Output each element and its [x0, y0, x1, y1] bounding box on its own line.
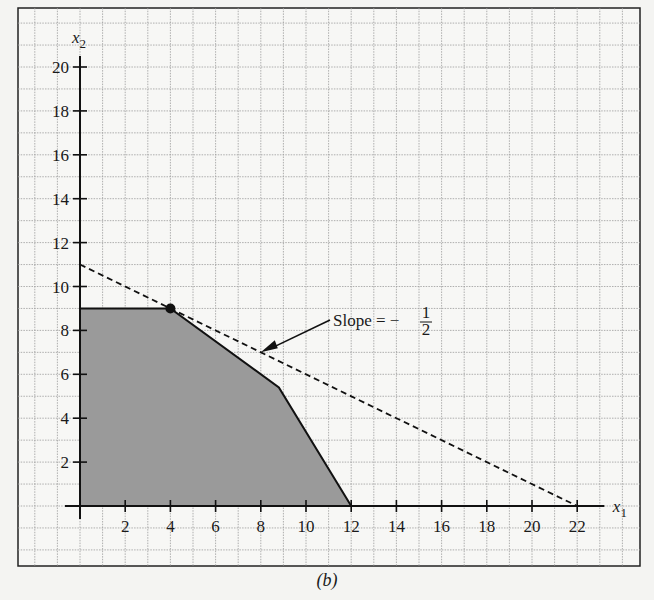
- lp-feasible-region-chart: 2468101214161820222468101214161820x1x2 S…: [0, 0, 654, 600]
- y-tick-label: 2: [61, 453, 70, 472]
- y-tick-label: 16: [52, 146, 69, 165]
- x-tick-label: 10: [298, 517, 315, 536]
- y-tick-label: 20: [52, 58, 69, 77]
- x-tick-label: 6: [211, 517, 220, 536]
- y-tick-label: 12: [52, 234, 69, 253]
- x-tick-label: 8: [257, 517, 266, 536]
- y-tick-label: 14: [52, 190, 70, 209]
- x-tick-label: 4: [166, 517, 175, 536]
- x-tick-label: 20: [524, 517, 541, 536]
- x-tick-label: 12: [343, 517, 360, 536]
- x-tick-label: 18: [478, 517, 495, 536]
- slope-label: Slope = −: [333, 311, 399, 330]
- figure-caption: (b): [0, 570, 654, 591]
- slope-fraction-denominator: 2: [422, 320, 431, 339]
- x-tick-label: 2: [121, 517, 130, 536]
- optimal-point-marker: [165, 303, 175, 313]
- x-tick-label: 16: [433, 517, 450, 536]
- y-tick-label: 4: [61, 409, 70, 428]
- x-tick-label: 14: [388, 517, 406, 536]
- y-tick-label: 18: [52, 102, 69, 121]
- y-tick-label: 10: [52, 278, 69, 297]
- x-tick-label: 22: [569, 517, 586, 536]
- y-tick-label: 8: [61, 321, 70, 340]
- y-tick-label: 6: [61, 365, 70, 384]
